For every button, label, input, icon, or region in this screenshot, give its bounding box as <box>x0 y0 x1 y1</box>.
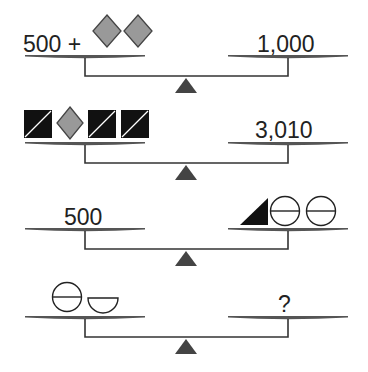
beam <box>85 58 288 76</box>
beam <box>85 319 288 337</box>
scale-4: ? <box>25 283 348 355</box>
diamond-shape <box>93 15 121 47</box>
split-square-shape <box>24 110 52 138</box>
fulcrum-triangle <box>175 251 197 266</box>
split-square-shape <box>88 110 116 138</box>
fulcrum-triangle <box>175 78 197 93</box>
left-pan <box>25 316 145 319</box>
half-circle-shape <box>88 298 118 313</box>
diamond-shape <box>57 107 83 139</box>
fulcrum-triangle <box>175 339 197 354</box>
right-pan <box>228 228 348 231</box>
black-triangle-shape <box>240 198 268 225</box>
left-label: 500 + <box>23 31 81 57</box>
split-circle-shape <box>271 197 300 226</box>
beam <box>85 145 288 163</box>
split-square-shape <box>121 110 149 138</box>
right-label: 1,000 <box>257 31 315 57</box>
left-pan <box>25 142 145 145</box>
split-circle-shape <box>53 283 82 312</box>
unknown-question-mark: ? <box>278 291 291 317</box>
left-label: 500 <box>64 204 102 230</box>
split-circle-shape <box>307 197 336 226</box>
scale-2: 3,010 <box>24 107 348 180</box>
fulcrum-triangle <box>175 165 197 180</box>
diamond-shape <box>124 15 152 47</box>
right-label: 3,010 <box>255 117 313 143</box>
scale-3: 500 <box>25 197 348 267</box>
beam <box>85 231 288 249</box>
scale-1: 500 + 1,000 <box>23 15 348 93</box>
balance-puzzle-diagram: 500 + 1,000 3,010 500 <box>0 0 368 372</box>
